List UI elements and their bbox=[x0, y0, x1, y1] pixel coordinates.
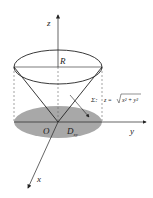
origin-label: O bbox=[43, 126, 50, 136]
z-axis-label: z bbox=[46, 18, 51, 28]
surface-name-label: Σ: bbox=[90, 96, 98, 104]
surface-eq-lhs: z = bbox=[103, 97, 112, 103]
radius-label: R bbox=[59, 56, 66, 66]
y-axis-label: y bbox=[129, 126, 134, 136]
cone-diagram: z R O Dxy y x Σ: z = x² + y² bbox=[0, 0, 153, 198]
surface-eq-rhs: x² + y² bbox=[121, 97, 138, 103]
x-axis-label: x bbox=[36, 174, 41, 184]
